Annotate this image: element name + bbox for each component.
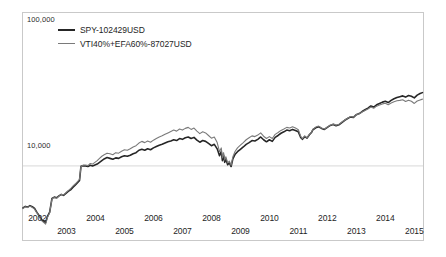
x-axis-tick-2014: 2014 bbox=[376, 213, 395, 223]
legend-label-spy: SPY-102429USD bbox=[80, 25, 145, 35]
legend-item-blend: VTI40%+EFA60%-87027USD bbox=[58, 38, 192, 49]
legend-swatch-spy bbox=[58, 29, 75, 31]
legend-label-blend: VTI40%+EFA60%-87027USD bbox=[80, 39, 192, 49]
x-axis-tick-2005: 2005 bbox=[115, 226, 134, 236]
legend-item-spy: SPY-102429USD bbox=[58, 24, 192, 35]
x-axis-tick-2012: 2012 bbox=[318, 213, 337, 223]
y-axis-label-100000: 100,000 bbox=[27, 15, 55, 24]
x-axis-tick-2006: 2006 bbox=[144, 213, 163, 223]
x-axis-tick-2003: 2003 bbox=[57, 226, 76, 236]
y-axis-label-10000: 10,000 bbox=[27, 141, 51, 150]
chart-screenshot: 100,000 10,000 SPY-102429USD VTI40%+EFA6… bbox=[0, 0, 446, 257]
x-axis-tick-2004: 2004 bbox=[86, 213, 105, 223]
x-axis-tick-2007: 2007 bbox=[173, 226, 192, 236]
x-axis-tick-2009: 2009 bbox=[231, 226, 250, 236]
x-axis-tick-2002: 2002 bbox=[28, 213, 47, 223]
x-axis-tick-2015: 2015 bbox=[405, 226, 424, 236]
x-axis-tick-2013: 2013 bbox=[347, 226, 366, 236]
x-axis-tick-2011: 2011 bbox=[289, 226, 307, 236]
chart-legend: SPY-102429USD VTI40%+EFA60%-87027USD bbox=[58, 24, 192, 49]
legend-swatch-blend bbox=[58, 43, 75, 44]
x-axis-tick-2010: 2010 bbox=[260, 213, 279, 223]
x-axis-tick-2008: 2008 bbox=[202, 213, 221, 223]
